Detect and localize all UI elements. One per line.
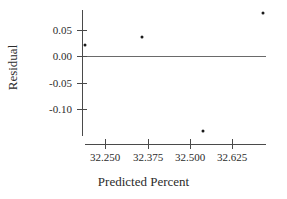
data-point — [84, 44, 87, 47]
y-tick-0 — [77, 30, 87, 31]
y-axis-line — [82, 10, 83, 136]
zero-reference-line — [82, 56, 266, 57]
data-point — [202, 130, 205, 133]
x-tick-label-1: 32.375 — [133, 152, 163, 163]
x-tick-2 — [190, 139, 191, 149]
y-tick-3 — [77, 109, 87, 110]
x-axis-title: Predicted Percent — [0, 174, 287, 189]
x-tick-3 — [232, 139, 233, 149]
y-tick-2 — [77, 83, 87, 84]
y-tick-1 — [77, 56, 87, 57]
data-point — [262, 12, 265, 15]
data-point — [141, 36, 144, 39]
plot-area: 0.05 0.00 -0.05 -0.10 32.250 32.375 32.5… — [0, 0, 287, 199]
x-axis-line — [85, 144, 266, 145]
x-tick-label-2: 32.500 — [175, 152, 205, 163]
x-tick-label-0: 32.250 — [90, 152, 120, 163]
x-tick-label-3: 32.625 — [217, 152, 247, 163]
residual-scatter-plot: 0.05 0.00 -0.05 -0.10 32.250 32.375 32.5… — [0, 0, 287, 199]
y-axis-title: Residual — [5, 18, 20, 118]
x-tick-1 — [148, 139, 149, 149]
x-tick-0 — [105, 139, 106, 149]
